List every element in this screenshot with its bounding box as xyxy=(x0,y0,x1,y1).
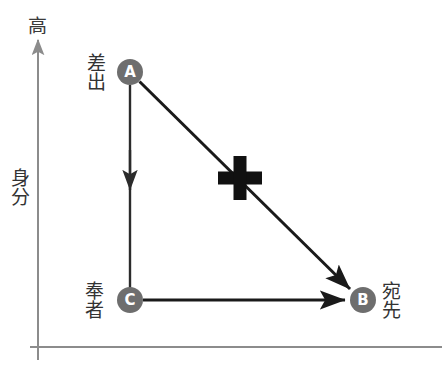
diagram-canvas: A C B 差出 奉者 宛先 高 身分 xyxy=(0,0,442,392)
y-axis-label: 身分 xyxy=(9,169,31,207)
diagram-svg xyxy=(0,0,442,392)
node-c-circle[interactable] xyxy=(117,287,143,313)
y-axis-top-cap-label: 高 xyxy=(28,16,47,36)
cross-mark-icon xyxy=(218,156,262,200)
node-b-circle[interactable] xyxy=(350,287,376,313)
node-b-label: 宛先 xyxy=(380,282,402,320)
node-c-label: 奉者 xyxy=(83,282,105,320)
node-a-label: 差出 xyxy=(85,54,107,92)
node-a-circle[interactable] xyxy=(117,59,143,85)
